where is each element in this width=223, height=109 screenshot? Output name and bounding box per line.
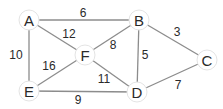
- node-C: C: [197, 50, 217, 70]
- edge-weight-A-F: 12: [62, 27, 76, 41]
- edge-weight-A-B: 6: [80, 6, 87, 20]
- node-label: E: [24, 83, 34, 100]
- node-F: F: [75, 45, 95, 65]
- edge-weight-B-D: 5: [142, 48, 149, 62]
- node-label: C: [202, 52, 213, 69]
- edge-weight-A-E: 10: [9, 48, 23, 62]
- node-label: A: [24, 12, 34, 29]
- edge-weight-E-D: 9: [75, 93, 82, 107]
- node-label: B: [134, 12, 144, 29]
- edge-weight-F-D: 11: [98, 72, 111, 86]
- edge-weight-F-E: 16: [42, 59, 56, 73]
- edge-B-D: [137, 20, 139, 92]
- node-B: B: [129, 10, 149, 30]
- node-A: A: [19, 10, 39, 30]
- edge-E-D: [29, 91, 137, 92]
- edge-weight-D-C: 7: [175, 78, 182, 92]
- node-D: D: [127, 82, 147, 102]
- node-label: D: [132, 84, 143, 101]
- edge-weight-B-C: 3: [174, 25, 181, 39]
- node-E: E: [19, 81, 39, 101]
- edge-weight-B-F: 8: [110, 38, 117, 52]
- node-label: F: [80, 47, 89, 64]
- edge-D-C: [137, 60, 207, 92]
- graph-diagram: 61210853161197 ABCDEF: [0, 0, 223, 109]
